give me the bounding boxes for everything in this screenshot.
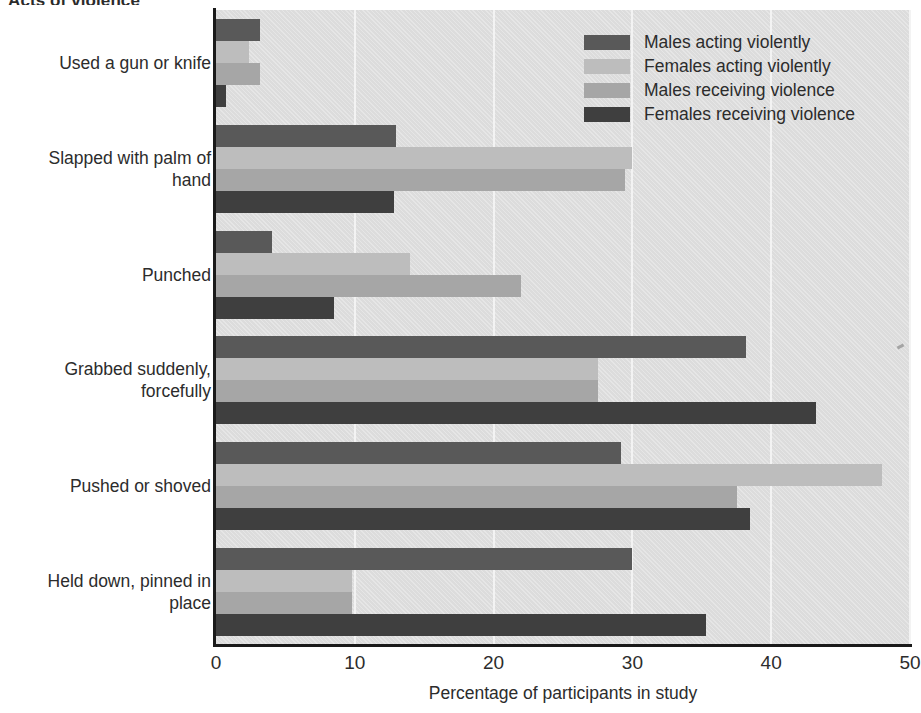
category-label: Pushed or shoved [0,475,211,497]
bar [216,548,632,570]
bar [216,508,750,530]
bar [216,169,625,191]
bar [216,275,521,297]
legend-swatch-icon [584,59,630,74]
category-label: Used a gun or knife [0,52,211,74]
legend-label: Males receiving violence [644,80,835,100]
x-tick-label-20: 20 [483,652,504,674]
bar [216,191,394,213]
legend-item[interactable]: Females receiving violence [584,102,855,126]
x-tick-label-30: 30 [622,652,643,674]
bar [216,231,272,253]
bar [216,358,598,380]
bar-group [216,222,910,328]
bar-group [216,539,910,645]
category-label: Punched [0,264,211,286]
bar [216,297,334,319]
bar [216,592,352,614]
bar [216,570,352,592]
bar [216,41,249,63]
legend-label: Males acting violently [644,32,810,52]
legend-item[interactable]: Males receiving violence [584,78,855,102]
bar [216,442,621,464]
bar [216,336,746,358]
legend-label: Females receiving violence [644,104,855,124]
page-title: Acts of violence [8,0,140,5]
bar [216,380,598,402]
bar [216,125,396,147]
category-label: Slapped with palm of hand [0,147,211,191]
bar-group [216,433,910,539]
legend-label: Females acting violently [644,56,831,76]
x-tick-label-50: 50 [899,652,920,674]
x-tick-label-0: 0 [211,652,222,674]
bar [216,402,816,424]
bar [216,253,410,275]
bar [216,486,737,508]
x-axis-title: Percentage of participants in study [216,683,910,704]
x-tick-label-10: 10 [344,652,365,674]
bar-group [216,328,910,434]
legend-item[interactable]: Males acting violently [584,30,855,54]
category-label: Grabbed suddenly, forcefully [0,358,211,402]
bar [216,85,226,107]
bar [216,147,632,169]
bar [216,19,260,41]
category-label: Held down, pinned in place [0,570,211,614]
legend-swatch-icon [584,35,630,50]
x-tick-label-40: 40 [761,652,782,674]
bar [216,464,882,486]
legend-item[interactable]: Females acting violently [584,54,855,78]
legend-swatch-icon [584,83,630,98]
bar [216,63,260,85]
y-axis-line [213,8,216,647]
bar [216,614,706,636]
legend: Males acting violentlyFemales acting vio… [584,30,855,126]
bar-group [216,116,910,222]
x-axis-line [213,644,912,647]
legend-swatch-icon [584,107,630,122]
